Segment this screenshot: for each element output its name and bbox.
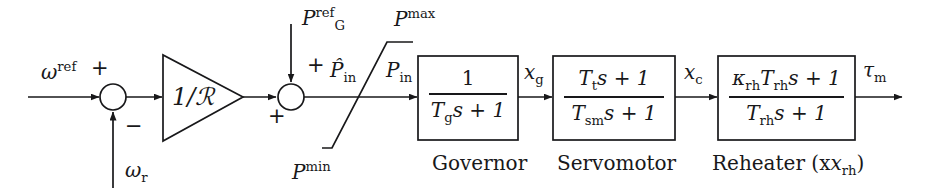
servomotor-caption: Servomotor [557,153,676,173]
block-diagram: ωref + − ωr 1/ℛ PrefG + + P̂in Pmax Pmin… [0,0,925,192]
label-tau-m: τm [863,60,887,84]
sign-minus-junction1: − [125,116,143,137]
label-p-in: Pin [386,60,412,84]
label-p-min: Pmin [292,160,331,182]
sign-plus-junction1: + [91,58,109,79]
gain-block-label: 1/ℛ [172,83,214,111]
governor-transfer-function: 1 Tgs + 1 [418,66,518,125]
sign-plus-junction2-top: + [307,55,325,76]
reheater-transfer-function: κrhTrhs + 1 Trhs + 1 [718,66,855,128]
summing-junction-1-circle [100,84,126,110]
label-x-c: xc [684,62,703,86]
governor-caption: Governor [432,153,527,173]
sign-plus-junction2-left: + [268,106,286,127]
label-p-in-hat: P̂in [330,60,356,84]
label-x-g: xg [524,62,544,86]
label-omega-ref: ωref [41,60,76,82]
reheater-caption: Reheater (xxrh) [712,153,864,177]
label-p-max: Pmax [394,7,435,29]
label-power-reference: PrefG [302,6,345,32]
label-omega-r: ωr [125,160,148,184]
servomotor-transfer-function: Tts + 1 Tsms + 1 [553,66,675,128]
